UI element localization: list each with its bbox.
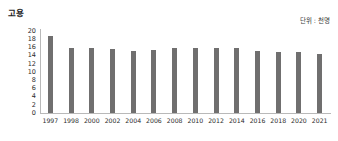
y-axis-tick-label: 12 <box>28 61 36 68</box>
bar <box>151 50 156 113</box>
bar <box>172 48 177 113</box>
y-axis-tick-label: 16 <box>28 44 36 51</box>
employment-bar-chart: 고용 단위 : 천명 02468101214161820 19971998200… <box>0 0 338 141</box>
y-axis-tick-label: 14 <box>28 52 36 59</box>
x-axis-tick-label: 2002 <box>105 117 121 124</box>
x-axis-tick-label: 2018 <box>270 117 286 124</box>
y-axis-tick-label: 8 <box>32 77 36 84</box>
plot-area <box>40 31 330 113</box>
x-axis-tick-label: 2021 <box>312 117 328 124</box>
y-axis-tick-label: 10 <box>28 69 36 76</box>
y-axis-tick-label: 4 <box>32 93 36 100</box>
x-axis-tick-label: 2020 <box>291 117 307 124</box>
y-axis-tick-label: 20 <box>28 28 36 35</box>
unit-label: 단위 : 천명 <box>300 15 330 25</box>
bar <box>296 52 301 113</box>
x-axis-tick-label: 2004 <box>125 117 141 124</box>
bar <box>69 48 74 113</box>
bar <box>214 48 219 113</box>
x-axis-tick-label: 2012 <box>208 117 224 124</box>
bar <box>110 49 115 113</box>
y-axis-tick-label: 6 <box>32 85 36 92</box>
x-axis-line <box>40 113 331 114</box>
x-axis-tick-label: 2014 <box>229 117 245 124</box>
y-axis-tick-labels: 02468101214161820 <box>0 0 36 141</box>
bar <box>48 36 53 113</box>
bar <box>234 48 239 113</box>
bar <box>193 48 198 113</box>
x-axis-tick-label: 1998 <box>63 117 79 124</box>
bar <box>317 54 322 113</box>
bar <box>255 51 260 113</box>
bar <box>89 48 94 113</box>
x-axis-tick-label: 2016 <box>250 117 266 124</box>
y-axis-tick-label: 18 <box>28 36 36 43</box>
bar <box>276 52 281 113</box>
x-axis-tick-label: 2008 <box>167 117 183 124</box>
y-axis-tick-label: 0 <box>32 110 36 117</box>
x-axis-tick-label: 2000 <box>84 117 100 124</box>
x-axis-tick-label: 2006 <box>146 117 162 124</box>
x-axis-tick-label: 2010 <box>187 117 203 124</box>
x-axis-tick-label: 1997 <box>42 117 58 124</box>
bar <box>131 51 136 113</box>
y-axis-tick-label: 2 <box>32 102 36 109</box>
